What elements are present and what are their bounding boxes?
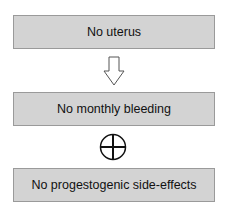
node-label: No progestogenic side-effects [31, 178, 196, 192]
node-label: No uterus [87, 25, 141, 39]
plus-circle-icon [99, 133, 127, 161]
node-no-progestogenic-side-effects: No progestogenic side-effects [13, 168, 215, 202]
arrow-down-icon [103, 56, 125, 86]
node-no-uterus: No uterus [13, 15, 215, 49]
node-label: No monthly bleeding [57, 102, 171, 116]
node-no-monthly-bleeding: No monthly bleeding [13, 92, 215, 126]
